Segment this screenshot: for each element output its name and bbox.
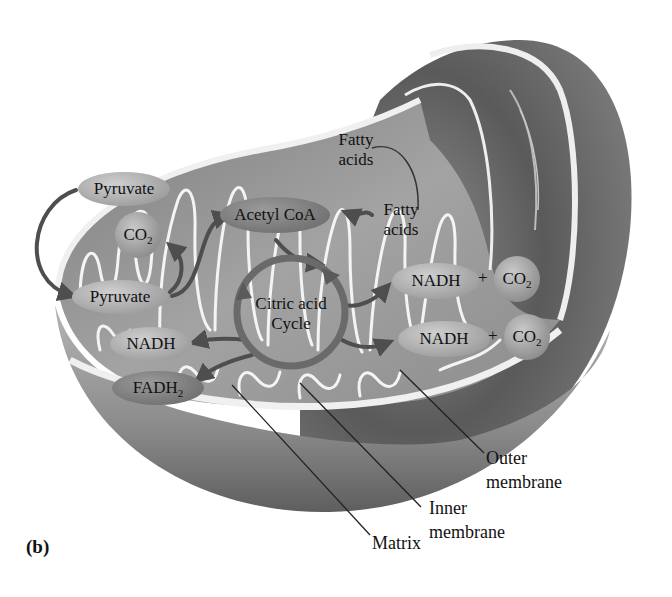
nadh-left-label: NADH xyxy=(126,334,175,354)
plus-sign-1: + xyxy=(478,268,488,288)
inner-membrane-label: Inner membrane xyxy=(429,496,505,544)
pyruvate-top-label: Pyruvate xyxy=(94,179,154,199)
co2-right-2-label: CO2 xyxy=(512,327,541,348)
acetyl-coa-pill: Acetyl CoA xyxy=(220,197,330,233)
nadh-right-2-pill: NADH xyxy=(398,321,490,357)
citric-acid-cycle-label: Citric acid Cycle xyxy=(242,294,340,334)
pyruvate-inner-pill: Pyruvate xyxy=(72,280,168,314)
fatty-acids-outer-label: Fatty acids xyxy=(326,130,386,170)
nadh-right-2-label: NADH xyxy=(419,329,468,349)
fadh2-label: FADH2 xyxy=(133,378,184,399)
pyruvate-inner-label: Pyruvate xyxy=(90,287,150,307)
pyruvate-top-pill: Pyruvate xyxy=(78,172,170,206)
co2-right-1-label: CO2 xyxy=(502,269,531,290)
nadh-right-1-label: NADH xyxy=(411,271,460,291)
matrix-label: Matrix xyxy=(372,533,421,553)
co2-right-1-ball: CO2 xyxy=(494,256,540,302)
nadh-left-pill: NADH xyxy=(110,327,192,361)
fadh2-pill: FADH2 xyxy=(112,371,204,405)
fatty-acids-inner-label: Fatty acids xyxy=(376,200,426,240)
acetyl-coa-label: Acetyl CoA xyxy=(234,205,316,225)
nadh-right-1-pill: NADH xyxy=(392,263,480,299)
mitochondrion-diagram: Pyruvate CO2 Pyruvate Acetyl CoA Fatty a… xyxy=(0,0,672,597)
panel-label: (b) xyxy=(26,536,49,558)
outer-membrane-label: Outer membrane xyxy=(486,446,562,494)
plus-sign-2: + xyxy=(488,326,498,346)
co2-left-ball: CO2 xyxy=(115,212,161,258)
co2-left-label: CO2 xyxy=(123,225,152,246)
co2-right-2-ball: CO2 xyxy=(504,314,550,360)
